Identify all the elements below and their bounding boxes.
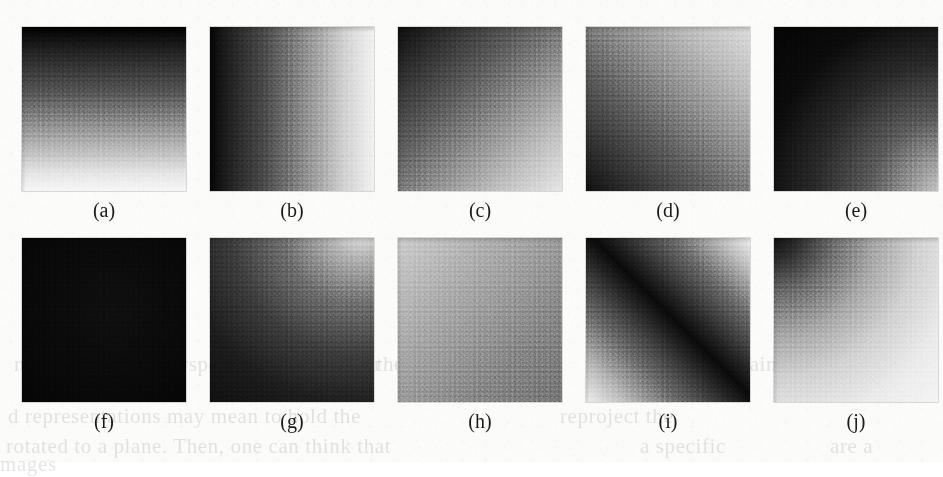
gradient-fill-e	[774, 27, 938, 191]
show-through-text-line: rotated to a plane. Then, one can think …	[6, 434, 391, 459]
intensity-patch-h	[398, 238, 562, 402]
gradient-fill-i	[586, 238, 750, 402]
gradient-fill-h	[398, 238, 562, 402]
gradient-fill-j	[774, 238, 938, 402]
panel-caption-j: (j)	[774, 411, 938, 431]
gradient-fill-b	[210, 27, 374, 191]
gradient-fill-g	[210, 238, 374, 402]
panel-caption-g: (g)	[210, 411, 374, 431]
panel-caption-e: (e)	[774, 200, 938, 220]
figure-panel-f: (f)	[22, 238, 186, 431]
panel-caption-b: (b)	[210, 200, 374, 220]
figure-panel-i: (i)	[586, 238, 750, 431]
panel-caption-f: (f)	[22, 411, 186, 431]
intensity-patch-a	[22, 27, 186, 191]
show-through-text-line: are a	[830, 434, 873, 459]
figure-panel-d: (d)	[586, 27, 750, 220]
figure-panel-g: (g)	[210, 238, 374, 431]
gradient-fill-c	[398, 27, 562, 191]
gradient-fill-a	[22, 27, 186, 191]
figure-panel-h: (h)	[398, 238, 562, 431]
panel-caption-c: (c)	[398, 200, 562, 220]
gradient-fill-d	[586, 27, 750, 191]
panel-caption-a: (a)	[22, 200, 186, 220]
intensity-patch-d	[586, 27, 750, 191]
intensity-patch-f	[22, 238, 186, 402]
gradient-fill-f	[22, 238, 186, 402]
intensity-patch-e	[774, 27, 938, 191]
panel-caption-d: (d)	[586, 200, 750, 220]
figure-panel-b: (b)	[210, 27, 374, 220]
intensity-patch-j	[774, 238, 938, 402]
panel-caption-h: (h)	[398, 411, 562, 431]
intensity-patch-c	[398, 27, 562, 191]
show-through-text-line: a specific	[640, 434, 726, 459]
intensity-patch-g	[210, 238, 374, 402]
intensity-patch-b	[210, 27, 374, 191]
panel-caption-i: (i)	[586, 411, 750, 431]
figure-panel-e: (e)	[774, 27, 938, 220]
show-through-text-line: mages	[0, 452, 57, 477]
intensity-patch-i	[586, 238, 750, 402]
figure-panel-a: (a)	[22, 27, 186, 220]
figure-panel-j: (j)	[774, 238, 938, 431]
figure-panel-c: (c)	[398, 27, 562, 220]
